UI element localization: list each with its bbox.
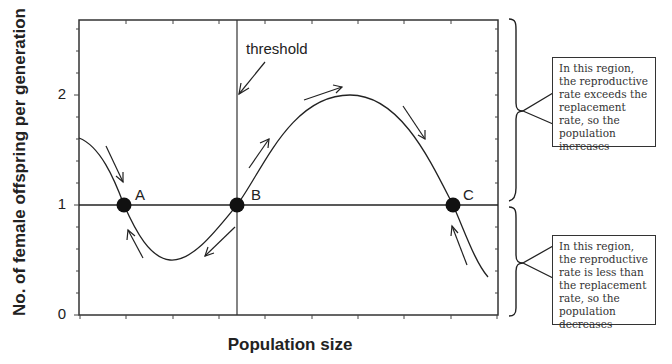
equilibrium-point-b	[230, 198, 245, 213]
arrow-down-toward-a-icon	[106, 146, 123, 182]
point-a-label: A	[135, 186, 145, 203]
upper-callout-connector	[523, 93, 553, 124]
point-b-label: B	[251, 186, 261, 203]
lower-region-note: In this region, the reproductive rate is…	[552, 235, 656, 325]
upper-region-note: In this region, the reproductive rate ex…	[552, 57, 656, 147]
y-axis-label: No. of female offspring per generation	[10, 16, 34, 316]
upper-region-brace-icon	[509, 19, 523, 201]
arrow-toward-peak-icon	[304, 85, 342, 100]
lower-callout-connector	[523, 246, 553, 278]
threshold-label: threshold	[246, 40, 308, 57]
y-tick-2: 2	[46, 85, 66, 102]
threshold-arrow-icon	[239, 62, 265, 94]
equilibrium-point-c	[446, 198, 461, 213]
lower-region-brace-icon	[509, 207, 523, 316]
arrow-away-from-b-down-icon	[205, 227, 235, 256]
x-axis-label: Population size	[180, 335, 400, 355]
point-c-label: C	[463, 186, 474, 203]
population-threshold-diagram: No. of female offspring per generation P…	[0, 0, 672, 364]
y-tick-0: 0	[46, 305, 66, 322]
y-tick-1: 1	[46, 195, 66, 212]
equilibrium-point-a	[117, 198, 132, 213]
arrow-away-from-b-up-icon	[249, 139, 269, 168]
arrow-up-toward-a-icon	[127, 230, 143, 258]
plot-frame	[79, 20, 498, 315]
arrow-down-toward-c-icon	[403, 106, 425, 139]
